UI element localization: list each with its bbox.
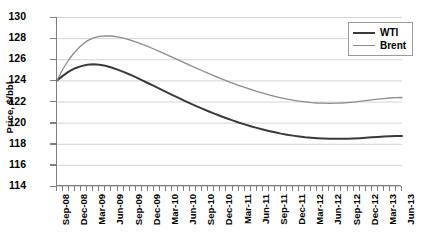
price-forecast-line-chart: Price, $/bbl 130128126124122120118116114… (0, 0, 430, 242)
x-tick-label: Jun-09 (114, 194, 125, 225)
x-tick-mark (286, 186, 287, 191)
x-tick-mark (322, 186, 323, 191)
x-tick-mark (171, 186, 172, 191)
legend-line-swatch (353, 32, 375, 34)
y-tick-mark (50, 143, 56, 144)
x-tick-mark (189, 186, 190, 191)
x-tick-mark (195, 186, 196, 191)
x-tick-mark (110, 186, 111, 191)
x-tick-label: Jun-10 (187, 194, 198, 225)
x-tick-mark (377, 186, 378, 191)
legend-item-label: WTI (380, 27, 398, 38)
x-tick-label: Dec-10 (223, 194, 234, 225)
x-tick-mark (141, 186, 142, 191)
x-tick-mark (262, 186, 263, 191)
x-tick-label: Jun-12 (332, 194, 343, 225)
x-tick-mark (280, 186, 281, 191)
x-tick-label: Jun-13 (405, 194, 416, 225)
x-tick-mark (310, 186, 311, 191)
x-tick-mark (165, 186, 166, 191)
x-tick-mark (316, 186, 317, 191)
x-tick-mark (238, 186, 239, 191)
x-tick-mark (207, 186, 208, 191)
x-tick-mark (371, 186, 372, 191)
x-tick-mark (334, 186, 335, 191)
x-tick-mark (347, 186, 348, 191)
x-tick-mark (62, 186, 63, 191)
x-tick-mark (353, 186, 354, 191)
x-tick-mark (153, 186, 154, 191)
x-tick-mark (244, 186, 245, 191)
x-tick-mark (183, 186, 184, 191)
x-tick-mark (401, 186, 402, 191)
x-tick-mark (395, 186, 396, 191)
x-tick-mark (104, 186, 105, 191)
x-tick-mark (201, 186, 202, 191)
x-tick-mark (304, 186, 305, 191)
x-tick-label: Sep-10 (205, 194, 216, 225)
chart-legend: WTIBrent (348, 22, 413, 56)
x-tick-mark (340, 186, 341, 191)
x-tick-mark (56, 186, 57, 191)
x-tick-label: Sep-09 (133, 194, 144, 225)
x-tick-label: Mar-09 (96, 194, 107, 225)
x-tick-mark (92, 186, 93, 191)
x-tick-mark (213, 186, 214, 191)
x-tick-mark (389, 186, 390, 191)
x-tick-mark (129, 186, 130, 191)
series-line-wti (57, 64, 402, 138)
x-tick-mark (256, 186, 257, 191)
legend-line-swatch (353, 45, 375, 46)
legend-item-brent[interactable]: Brent (353, 39, 406, 52)
x-tick-mark (74, 186, 75, 191)
x-tick-mark (365, 186, 366, 191)
x-tick-label: Sep-08 (60, 194, 71, 225)
legend-item-wti[interactable]: WTI (353, 26, 406, 39)
x-tick-label: Mar-13 (387, 194, 398, 225)
x-tick-label: Mar-11 (242, 194, 253, 224)
x-tick-mark (123, 186, 124, 191)
x-tick-mark (328, 186, 329, 191)
x-tick-mark (68, 186, 69, 191)
x-tick-mark (298, 186, 299, 191)
x-tick-mark (135, 186, 136, 191)
x-tick-mark (232, 186, 233, 191)
x-tick-mark (274, 186, 275, 191)
x-tick-mark (117, 186, 118, 191)
x-tick-mark (268, 186, 269, 191)
x-tick-mark (359, 186, 360, 191)
y-tick-mark (50, 122, 56, 123)
x-tick-mark (80, 186, 81, 191)
y-tick-mark (50, 38, 56, 39)
x-tick-label: Sep-11 (278, 194, 289, 225)
x-tick-label: Jun-11 (260, 194, 271, 224)
x-tick-mark (86, 186, 87, 191)
x-tick-mark (98, 186, 99, 191)
x-tick-label: Dec-09 (151, 194, 162, 225)
y-tick-mark (50, 164, 56, 165)
x-tick-label: Mar-12 (314, 194, 325, 225)
x-tick-label: Dec-08 (78, 194, 89, 225)
x-tick-mark (383, 186, 384, 191)
y-tick-mark (50, 17, 56, 18)
x-tick-mark (159, 186, 160, 191)
x-tick-label: Mar-10 (169, 194, 180, 225)
x-tick-label: Dec-11 (296, 194, 307, 225)
x-tick-label: Dec-12 (369, 194, 380, 225)
x-tick-label: Sep-12 (351, 194, 362, 225)
y-tick-mark (50, 101, 56, 102)
y-tick-mark (50, 80, 56, 81)
x-tick-mark (225, 186, 226, 191)
x-tick-mark (177, 186, 178, 191)
legend-item-label: Brent (380, 40, 406, 51)
y-tick-mark (50, 59, 56, 60)
x-tick-mark (219, 186, 220, 191)
x-tick-mark (250, 186, 251, 191)
x-tick-mark (292, 186, 293, 191)
x-tick-mark (147, 186, 148, 191)
